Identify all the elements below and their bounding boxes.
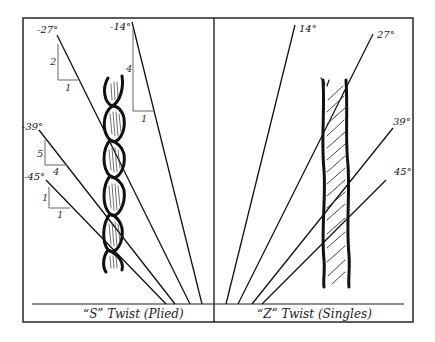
angle-label-27: 27° xyxy=(376,29,395,40)
angle-label-14: 14° xyxy=(299,23,317,34)
angle-line-27 xyxy=(238,34,373,304)
run-label-39: 4 xyxy=(52,166,59,177)
s-twist-panel: -27° -14° -39° -45° 2 1 4 1 5 4 1 1 xyxy=(22,21,202,321)
s-twist-caption: “S” Twist (Plied) xyxy=(83,307,184,321)
angle-label-minus-39: -39° xyxy=(22,121,43,132)
run-label-14: 1 xyxy=(141,113,147,124)
z-twist-panel: 14° 27° 39° 45° “Z” Twist (Singles) xyxy=(226,23,412,321)
angle-label-minus-45: -45° xyxy=(24,171,45,182)
angle-label-minus-14: -14° xyxy=(110,21,131,32)
run-label-45: 1 xyxy=(57,209,63,220)
slope-triangle-27 xyxy=(58,44,78,80)
run-label-27: 1 xyxy=(65,82,71,93)
z-twist-caption: “Z” Twist (Singles) xyxy=(257,307,372,321)
angle-label-39: 39° xyxy=(393,116,411,127)
rise-label-27: 2 xyxy=(49,56,56,67)
twist-angle-diagram: -27° -14° -39° -45° 2 1 4 1 5 4 1 1 xyxy=(0,0,435,342)
slope-triangle-45 xyxy=(49,187,70,208)
angle-line-14 xyxy=(226,25,295,304)
diagram-frame xyxy=(23,18,413,322)
rise-label-45: 1 xyxy=(42,192,48,203)
angle-label-45: 45° xyxy=(393,166,412,177)
angle-label-minus-27: -27° xyxy=(37,24,58,35)
rise-label-14: 4 xyxy=(125,63,132,74)
rise-label-39: 5 xyxy=(37,148,43,159)
